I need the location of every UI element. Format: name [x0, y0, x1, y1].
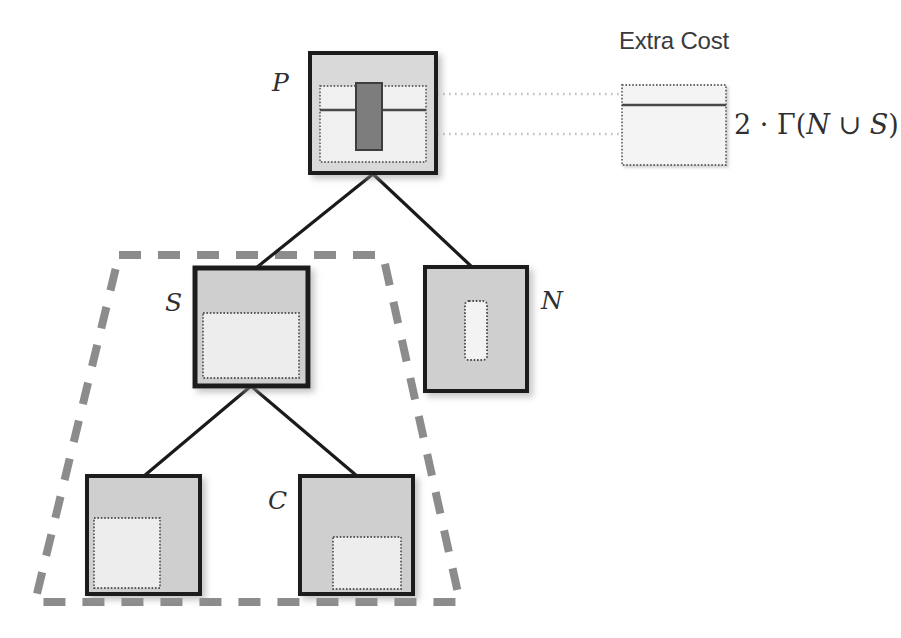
- formula-var-s: S: [870, 109, 889, 140]
- extra-cost-callout-box: [622, 85, 726, 165]
- formula-var-n: N: [806, 109, 830, 140]
- formula-prefix: 2 · Γ(: [734, 109, 806, 140]
- node-p[interactable]: [310, 53, 436, 173]
- node-p-dark-block: [356, 83, 382, 150]
- extra-cost-title: Extra Cost: [619, 29, 729, 53]
- extra-cost-formula: 2 · Γ(N ∪ S): [734, 111, 899, 138]
- diagram-canvas: P S N C Extra Cost 2 · Γ(N ∪ S): [0, 0, 901, 638]
- callout-outer-box: [622, 85, 726, 165]
- node-n-inner-dotted-strip: [465, 301, 487, 360]
- node-label-c: C: [268, 488, 287, 513]
- node-c-right-inner-dotted-box: [333, 537, 401, 589]
- node-n[interactable]: [425, 267, 527, 391]
- edge-s-to-c-right: [251, 386, 357, 476]
- node-c-right[interactable]: [300, 476, 413, 594]
- zoom-connector-lines: [437, 94, 621, 134]
- node-c-left-inner-dotted-box: [94, 518, 160, 588]
- formula-union-symbol: ∪: [830, 109, 870, 140]
- node-label-s: S: [165, 290, 182, 315]
- node-c-left[interactable]: [87, 476, 200, 594]
- edge-p-to-n: [373, 174, 472, 267]
- node-label-p: P: [272, 70, 289, 95]
- diagram-graphics: [0, 0, 901, 638]
- formula-suffix: ): [888, 109, 899, 140]
- node-label-n: N: [541, 288, 563, 313]
- edge-s-to-c-left: [144, 386, 251, 476]
- node-s[interactable]: [195, 268, 308, 386]
- node-s-inner-dotted-box: [203, 313, 299, 378]
